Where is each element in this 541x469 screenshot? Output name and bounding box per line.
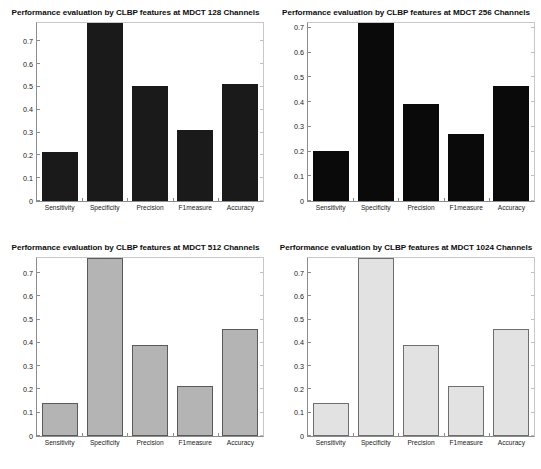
bar-specificity[interactable] [358,23,394,201]
bar-sensitivity[interactable] [313,151,349,201]
y-tick-label: 0.3 [294,363,308,370]
bar-f1measure[interactable] [177,130,213,201]
y-tick-label: 0.1 [23,175,37,182]
bar-slot [218,258,263,436]
y-tick-label: 0.2 [294,148,308,155]
y-tick-label: 0.5 [294,74,308,81]
x-tick-label-specificity: Specificity [353,204,398,212]
y-tick-mark [308,342,311,343]
x-tick-mark [489,433,490,436]
y-tick-mark-right [260,40,263,41]
y-tick-mark [308,151,311,152]
x-axis-labels: SensitivitySpecificityPrecisionF1measure… [37,201,263,212]
x-tick-label-accuracy: Accuracy [489,439,534,447]
bar-precision[interactable] [132,345,168,436]
y-tick-mark-right [531,175,534,176]
y-tick-mark [37,177,40,178]
x-axis-labels: SensitivitySpecificityPrecisionF1measure… [308,201,534,212]
bar-slot [82,258,127,436]
bar-specificity[interactable] [87,258,123,436]
panel-title: Performance evaluation by CLBP features … [271,8,541,18]
y-tick-label: 0 [29,433,37,440]
y-tick-mark [37,319,40,320]
y-tick-label: 0 [300,433,308,440]
bar-sensitivity[interactable] [42,152,78,201]
y-tick-label: 0.1 [294,409,308,416]
bar-precision[interactable] [132,86,168,201]
x-tick-mark [173,433,174,436]
bar-slot [173,23,218,201]
bar-precision[interactable] [403,345,439,436]
bar-accuracy[interactable] [222,329,258,436]
plot-axes: 00.10.20.30.40.50.60.7 SensitivitySpecif… [36,22,264,202]
y-tick-label: 0.7 [294,270,308,277]
y-tick-label: 0.4 [23,339,37,346]
x-tick-label-accuracy: Accuracy [218,439,263,447]
x-axis-labels: SensitivitySpecificityPrecisionF1measure… [37,436,263,447]
bar-specificity[interactable] [87,23,123,201]
y-tick-mark [308,365,311,366]
x-tick-label-f1measure: F1measure [173,439,218,447]
bar-accuracy[interactable] [222,84,258,201]
bar-f1measure[interactable] [448,134,484,201]
y-tick-label: 0.6 [294,49,308,56]
bar-specificity[interactable] [358,258,394,436]
x-tick-mark [173,198,174,201]
bar-accuracy[interactable] [493,329,529,436]
x-tick-mark [398,198,399,201]
bar-f1measure[interactable] [448,386,484,436]
y-tick-mark-right [260,132,263,133]
plot-area [308,258,534,436]
bar-slot [218,23,263,201]
bar-sensitivity[interactable] [42,403,78,436]
y-tick-mark [308,388,311,389]
plot-axes: 00.10.20.30.40.50.60.7 SensitivitySpecif… [307,257,535,437]
x-tick-mark [353,433,354,436]
y-tick-mark [37,388,40,389]
bar-slot [82,23,127,201]
x-tick-label-sensitivity: Sensitivity [37,439,82,447]
y-tick-mark [37,40,40,41]
plot-axes: 00.10.20.30.40.50.60.7 SensitivitySpecif… [307,22,535,202]
x-tick-mark [444,198,445,201]
y-tick-mark-right [260,177,263,178]
y-tick-mark [37,63,40,64]
y-tick-label: 0.2 [23,386,37,393]
y-tick-label: 0.6 [294,293,308,300]
bar-f1measure[interactable] [177,386,213,436]
bar-slot [353,258,398,436]
plot-area [308,23,534,201]
x-tick-mark [82,433,83,436]
y-tick-label: 0.4 [294,99,308,106]
bar-precision[interactable] [403,104,439,201]
bar-slot [398,258,443,436]
y-tick-label: 0.3 [294,123,308,130]
x-tick-label-accuracy: Accuracy [218,204,263,212]
bar-slot [398,23,443,201]
plot-axes: 00.10.20.30.40.50.60.7 SensitivitySpecif… [36,257,264,437]
bar-series [37,23,263,201]
y-tick-mark-right [260,342,263,343]
x-tick-mark [398,433,399,436]
bar-slot [444,258,489,436]
y-tick-label: 0.7 [23,270,37,277]
y-tick-mark-right [260,319,263,320]
y-tick-mark [37,86,40,87]
x-tick-mark [489,198,490,201]
y-tick-label: 0.2 [294,386,308,393]
y-tick-mark-right [531,342,534,343]
y-tick-label: 0.2 [23,152,37,159]
bar-accuracy[interactable] [493,86,529,201]
y-tick-mark [37,109,40,110]
bar-slot [308,258,353,436]
y-tick-label: 0.4 [23,106,37,113]
y-tick-label: 0.6 [23,293,37,300]
bar-slot [37,258,82,436]
bar-sensitivity[interactable] [313,403,349,436]
x-tick-label-precision: Precision [398,439,443,447]
y-tick-mark [308,27,311,28]
y-tick-label: 0 [29,198,37,205]
y-tick-mark-right [260,365,263,366]
bar-series [308,23,534,201]
y-tick-mark-right [260,412,263,413]
